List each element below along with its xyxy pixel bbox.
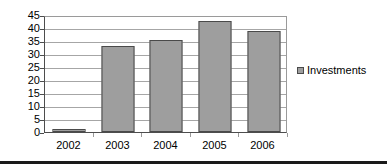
x-axis-tick-label: 2004 xyxy=(141,139,190,151)
y-axis-tick-label: 15 xyxy=(6,88,40,99)
bar-slot xyxy=(45,17,94,132)
x-axis-tick-mark xyxy=(141,133,142,137)
legend-label-investments: Investments xyxy=(307,64,366,76)
y-axis-tick-label: 35 xyxy=(6,36,40,47)
bottom-divider xyxy=(0,161,387,164)
bar-2005 xyxy=(199,21,232,132)
bar-slot xyxy=(94,17,143,132)
x-axis-tick-mark xyxy=(238,133,239,137)
legend-square-marker xyxy=(297,67,304,74)
y-axis-tick-mark xyxy=(40,133,44,134)
y-axis-tick-label: 40 xyxy=(6,23,40,34)
y-axis-tick-label: 30 xyxy=(6,49,40,60)
bar-2006 xyxy=(247,31,280,132)
y-axis-tick-label: 20 xyxy=(6,75,40,86)
x-axis-tick-label: 2002 xyxy=(44,139,93,151)
chart-legend: Investments xyxy=(297,64,366,76)
bar-slot xyxy=(191,17,240,132)
x-axis-tick-label: 2003 xyxy=(93,139,142,151)
bar-chart-figure: 051015202530354045 20022003200420052006 … xyxy=(0,0,387,166)
x-axis-tick-mark xyxy=(190,133,191,137)
y-axis-tick-label: 45 xyxy=(6,10,40,21)
bar-slot xyxy=(239,17,288,132)
bar-2002 xyxy=(53,129,86,132)
y-axis-tick-label: 25 xyxy=(6,62,40,73)
x-axis-tick-label: 2006 xyxy=(238,139,287,151)
y-axis-tick-label: 0 xyxy=(6,127,40,138)
y-axis-tick-label: 5 xyxy=(6,114,40,125)
bar-2003 xyxy=(101,46,134,132)
bar-slot xyxy=(142,17,191,132)
bar-2004 xyxy=(150,40,183,132)
x-axis-tick-mark xyxy=(93,133,94,137)
plot-area xyxy=(44,16,287,133)
y-axis-tick-label: 10 xyxy=(6,101,40,112)
x-axis-tick-mark xyxy=(287,133,288,137)
x-axis-tick-label: 2005 xyxy=(190,139,239,151)
